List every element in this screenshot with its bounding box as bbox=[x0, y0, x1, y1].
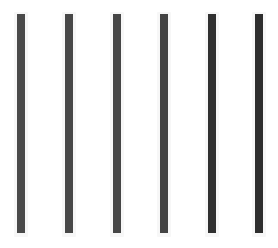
vertical-bar-5 bbox=[208, 14, 216, 233]
vertical-bar-3 bbox=[113, 14, 121, 233]
vertical-bar-2 bbox=[65, 14, 73, 233]
stripe-pattern-canvas bbox=[0, 0, 278, 248]
vertical-bar-1 bbox=[17, 14, 25, 233]
vertical-bar-4 bbox=[160, 14, 168, 233]
vertical-bar-6 bbox=[255, 14, 263, 233]
